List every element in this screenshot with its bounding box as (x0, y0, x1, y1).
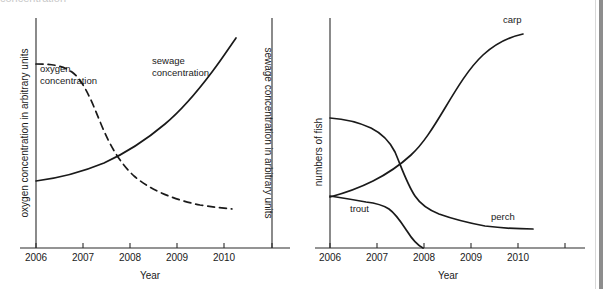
curve-sewage-concentration (36, 38, 236, 181)
pollution-ylabel: oxygen concentration in arbitrary units (19, 49, 30, 218)
pollution-xticklabel-0: 2006 (25, 252, 48, 263)
fish-population-chart-panel: 2006 2007 2008 2009 2010 Year numbers of… (303, 0, 591, 289)
pollution-xticklabel-1: 2007 (72, 252, 95, 263)
curve-carp (330, 34, 523, 197)
pollution-annotation-oxygen-line2: concentration (40, 75, 97, 86)
pollution-xticklabel-3: 2009 (166, 252, 189, 263)
pollution-xlabel: Year (140, 270, 161, 281)
curve-trout (330, 196, 423, 248)
fish-xlabel: Year (438, 270, 459, 281)
pollution-annotation-sewage-line1: sewage (152, 55, 185, 66)
fish-population-chart-svg: 2006 2007 2008 2009 2010 Year numbers of… (303, 0, 591, 289)
fish-annotation-perch: perch (491, 211, 515, 222)
fish-xticklabel-4: 2010 (507, 252, 530, 263)
fish-annotation-trout: trout (350, 203, 369, 214)
pollution-annotation-oxygen-line1: oxygen (40, 63, 71, 74)
pollution-annotation-sewage-line2: concentration (152, 67, 209, 78)
fish-annotation-carp: carp (503, 14, 521, 25)
fish-ylabel: numbers of fish (313, 118, 324, 186)
pollution-chart-svg: 2006 2007 2008 2009 2010 Year oxygen con… (0, 0, 303, 289)
pollution-xticklabel-2: 2008 (119, 252, 142, 263)
pollution-chart-panel: 2006 2007 2008 2009 2010 Year oxygen con… (0, 0, 303, 289)
fish-xticklabel-1: 2007 (366, 252, 389, 263)
fish-xticklabel-3: 2009 (460, 252, 483, 263)
page-edge-strip (595, 0, 603, 289)
fish-xticklabel-2: 2008 (413, 252, 436, 263)
fish-xticklabel-0: 2006 (319, 252, 342, 263)
figure-canvas: concentration 2006 2007 2008 2009 2010 Y (0, 0, 603, 289)
pollution-y2label: sewage concentration in arbitrary units (263, 47, 274, 218)
pollution-xticklabel-4: 2010 (213, 252, 236, 263)
